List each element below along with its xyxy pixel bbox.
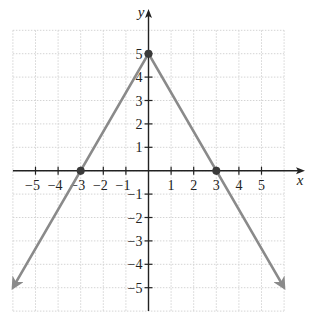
y-tick-label: 3	[136, 94, 143, 109]
x-tick-label: 1	[168, 178, 175, 193]
y-tick-label: 1	[136, 140, 143, 155]
y-tick-label: −2	[128, 211, 143, 226]
y-axis-label: y	[136, 4, 145, 20]
y-tick-label: −3	[128, 234, 143, 249]
x-tick-label: 4	[235, 178, 242, 193]
x-tick-label: 3	[213, 178, 220, 193]
marked-point	[77, 167, 85, 175]
x-tick-label: −2	[93, 178, 108, 193]
y-tick-label: −1	[128, 187, 143, 202]
y-tick-label: −5	[128, 281, 143, 296]
y-tick-label: 2	[136, 117, 143, 132]
x-tick-label: −4	[48, 178, 63, 193]
marked-point	[212, 167, 220, 175]
graph-plot: −5−4−3−2−112345−5−4−3−2−112345 x y	[0, 0, 315, 319]
x-axis-label: x	[296, 172, 304, 188]
x-tick-label: 2	[190, 178, 197, 193]
x-tick-label: 5	[258, 178, 265, 193]
marked-point	[145, 50, 153, 58]
y-tick-label: −4	[128, 257, 143, 272]
x-tick-label: −5	[25, 178, 40, 193]
y-tick-label: 5	[136, 47, 143, 62]
